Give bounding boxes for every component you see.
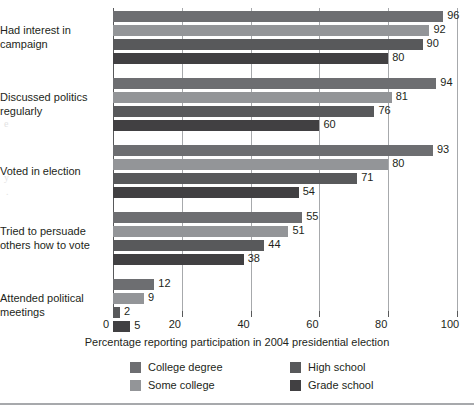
legend-label: High school <box>308 361 365 373</box>
bar-value-label: 60 <box>323 118 335 131</box>
category-label: Voted in election <box>0 165 105 179</box>
x-axis-title: Percentage reporting participation in 20… <box>0 336 474 348</box>
bar-group: 94817660 <box>113 78 457 131</box>
x-axis-tick <box>251 311 252 317</box>
category-label-line: campaign <box>0 38 105 52</box>
chart-legend: College degreeSome collegeHigh schoolGra… <box>130 360 420 394</box>
legend-item[interactable]: Grade school <box>290 378 373 392</box>
legend-swatch-icon <box>290 380 301 391</box>
category-label-line: Attended political <box>0 292 105 306</box>
legend-label: College degree <box>148 361 223 373</box>
legend-item[interactable]: College degree <box>130 360 223 374</box>
bar[interactable] <box>113 159 388 170</box>
x-axis-tick <box>182 311 183 317</box>
bar-row[interactable]: 90 <box>113 39 457 50</box>
bleed-mark: . <box>6 186 9 197</box>
x-axis-tick-label: 60 <box>306 318 318 331</box>
bar-row[interactable]: 93 <box>113 145 457 156</box>
bar-value-label: 90 <box>427 37 439 50</box>
bar-row[interactable]: 51 <box>113 226 457 237</box>
bar[interactable] <box>113 173 357 184</box>
category-label-line: Had interest in <box>0 24 105 38</box>
category-label: Tried to persuadeothers how to vote <box>0 225 105 252</box>
x-axis-tick-label: 0 <box>103 318 109 331</box>
bar-row[interactable]: 12 <box>113 279 457 290</box>
bar[interactable] <box>113 279 154 290</box>
bar-value-label: 12 <box>158 277 170 290</box>
bar[interactable] <box>113 187 299 198</box>
category-label-line: Tried to persuade <box>0 225 105 239</box>
bar-value-label: 54 <box>303 185 315 198</box>
bar-value-label: 93 <box>437 143 449 156</box>
x-axis-tick-label: 20 <box>169 318 181 331</box>
bar-row[interactable]: 38 <box>113 254 457 265</box>
bar-row[interactable]: 76 <box>113 106 457 117</box>
bleed-mark: e <box>4 118 8 129</box>
bar-value-label: 9 <box>148 291 154 304</box>
x-axis-tick-label: 100 <box>441 318 459 331</box>
category-label-line: regularly <box>0 105 105 119</box>
bar-row[interactable]: 80 <box>113 53 457 64</box>
bar-value-label: 76 <box>378 104 390 117</box>
x-axis-tick <box>457 311 458 317</box>
bar[interactable] <box>113 11 443 22</box>
plot-right-border <box>457 8 458 311</box>
bar-row[interactable]: 54 <box>113 187 457 198</box>
category-label-line: meetings <box>0 306 105 320</box>
chart-figure: e y . Had interest incampaignDiscussed p… <box>0 0 474 415</box>
bar-value-label: 80 <box>392 51 404 64</box>
bar-row[interactable]: 81 <box>113 92 457 103</box>
bar-value-label: 96 <box>447 9 459 22</box>
bar[interactable] <box>113 226 288 237</box>
bar-row[interactable]: 44 <box>113 240 457 251</box>
bar-row[interactable]: 71 <box>113 173 457 184</box>
bar[interactable] <box>113 120 319 131</box>
bar[interactable] <box>113 212 302 223</box>
bar-row[interactable]: 55 <box>113 212 457 223</box>
bar-row[interactable]: 80 <box>113 159 457 170</box>
category-label-line: Discussed politics <box>0 91 105 105</box>
bar-row[interactable]: 9 <box>113 293 457 304</box>
legend-swatch-icon <box>290 362 301 373</box>
bar[interactable] <box>113 254 244 265</box>
bar[interactable] <box>113 92 392 103</box>
bar[interactable] <box>113 78 436 89</box>
legend-label: Grade school <box>308 379 373 391</box>
bar-group: 55514438 <box>113 212 457 265</box>
bar-value-label: 94 <box>440 76 452 89</box>
bar-value-label: 44 <box>268 238 280 251</box>
bar[interactable] <box>113 39 423 50</box>
x-axis-tick-label: 80 <box>375 318 387 331</box>
bar-value-label: 92 <box>433 23 445 36</box>
category-label-line: Voted in election <box>0 165 105 179</box>
bar-row[interactable]: 92 <box>113 25 457 36</box>
bar[interactable] <box>113 293 144 304</box>
bar-row[interactable]: 60 <box>113 120 457 131</box>
bar[interactable] <box>113 240 264 251</box>
category-label-line: others how to vote <box>0 239 105 253</box>
legend-item[interactable]: Some college <box>130 378 215 392</box>
x-axis: 020406080100 <box>113 311 458 333</box>
bar-row[interactable]: 96 <box>113 11 457 22</box>
bar-value-label: 71 <box>361 171 373 184</box>
bar-group: 96929080 <box>113 11 457 64</box>
x-axis-tick-label: 40 <box>237 318 249 331</box>
x-axis-tick <box>113 311 114 317</box>
bar[interactable] <box>113 145 433 156</box>
bottom-divider <box>0 403 474 405</box>
legend-item[interactable]: High school <box>290 360 365 374</box>
bar-value-label: 80 <box>392 157 404 170</box>
legend-swatch-icon <box>130 362 141 373</box>
plot-area: 9692908094817660938071545551443812925 <box>113 8 457 311</box>
bar[interactable] <box>113 53 388 64</box>
x-axis-tick <box>319 311 320 317</box>
bar[interactable] <box>113 25 429 36</box>
category-label: Discussed politicsregularly <box>0 91 105 118</box>
legend-swatch-icon <box>130 380 141 391</box>
x-axis-tick <box>388 311 389 317</box>
bar[interactable] <box>113 106 374 117</box>
bar-row[interactable]: 94 <box>113 78 457 89</box>
legend-label: Some college <box>148 379 215 391</box>
category-label: Had interest incampaign <box>0 24 105 51</box>
bar-value-label: 51 <box>292 224 304 237</box>
